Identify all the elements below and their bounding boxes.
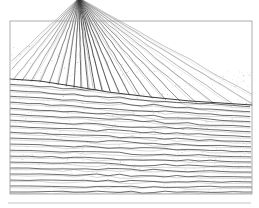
soil-speck: [134, 135, 135, 136]
soil-speck: [77, 145, 78, 146]
soil-speck: [133, 111, 134, 112]
soil-speck: [127, 76, 128, 77]
soil-speck: [105, 94, 106, 95]
soil-speck: [122, 150, 123, 151]
soil-speck: [245, 112, 246, 113]
soil-speck: [164, 154, 165, 155]
soil-speck: [126, 61, 127, 62]
soil-speck: [23, 117, 24, 118]
soil-speck: [47, 124, 48, 125]
soil-speck: [200, 75, 201, 76]
soil-speck: [16, 170, 17, 171]
soil-speck: [241, 126, 242, 127]
soil-speck: [177, 75, 178, 76]
soil-speck: [99, 139, 100, 140]
soil-speck: [132, 132, 133, 133]
soil-speck: [182, 129, 183, 130]
soil-speck: [29, 139, 30, 140]
soil-speck: [189, 99, 190, 100]
soil-speck: [142, 93, 143, 94]
soil-speck: [215, 74, 216, 75]
soil-speck: [238, 91, 239, 92]
soil-speck: [125, 135, 126, 136]
soil-speck: [16, 98, 17, 99]
soil-speck: [89, 120, 90, 121]
soil-speck: [143, 94, 144, 95]
soil-speck: [175, 85, 176, 86]
soil-speck: [28, 112, 29, 113]
soil-speck: [32, 85, 33, 86]
soil-speck: [232, 79, 233, 80]
soil-speck: [70, 80, 71, 81]
soil-speck: [228, 71, 229, 72]
soil-speck: [101, 113, 102, 114]
soil-speck: [66, 52, 67, 53]
soil-speck: [242, 186, 243, 187]
soil-speck: [181, 74, 182, 75]
soil-speck: [40, 72, 41, 73]
soil-speck: [153, 137, 154, 138]
soil-speck: [47, 117, 48, 118]
soil-speck: [184, 190, 185, 191]
soil-speck: [113, 138, 114, 139]
soil-speck: [193, 176, 194, 177]
soil-speck: [30, 63, 31, 64]
soil-speck: [39, 116, 40, 117]
soil-speck: [220, 82, 221, 83]
soil-speck: [243, 75, 244, 76]
soil-speck: [122, 79, 123, 80]
soil-speck: [145, 91, 146, 92]
soil-speck: [71, 88, 72, 89]
soil-speck: [158, 69, 159, 70]
soil-speck: [192, 191, 193, 192]
soil-speck: [223, 76, 224, 77]
soil-speck: [17, 81, 18, 82]
soil-speck: [181, 144, 182, 145]
soil-speck: [15, 122, 16, 123]
soil-speck: [192, 81, 193, 82]
soil-speck: [80, 71, 81, 72]
soil-speck: [29, 46, 30, 47]
soil-speck: [240, 155, 241, 156]
soil-speck: [194, 168, 195, 169]
soil-speck: [201, 174, 202, 175]
soil-speck: [94, 101, 95, 102]
soil-speck: [88, 130, 89, 131]
soil-speck: [165, 90, 166, 91]
soil-speck: [178, 87, 179, 88]
soil-speck: [118, 169, 119, 170]
soil-speck: [149, 125, 150, 126]
soil-speck: [240, 157, 241, 158]
soil-speck: [223, 140, 224, 141]
soil-speck: [23, 154, 24, 155]
soil-speck: [20, 157, 21, 158]
soil-speck: [83, 160, 84, 161]
soil-speck: [51, 136, 52, 137]
soil-speck: [177, 77, 178, 78]
soil-speck: [54, 75, 55, 76]
soil-speck: [114, 133, 115, 134]
soil-speck: [116, 112, 117, 113]
soil-speck: [101, 140, 102, 141]
soil-speck: [236, 143, 237, 144]
soil-speck: [179, 179, 180, 180]
soil-speck: [235, 86, 236, 87]
soil-speck: [67, 113, 68, 114]
figure-container: Ploughed field with converging furrows: [0, 0, 259, 208]
soil-speck: [60, 53, 61, 54]
soil-speck: [84, 97, 85, 98]
soil-speck: [232, 123, 233, 124]
soil-speck: [118, 118, 119, 119]
soil-speck: [113, 157, 114, 158]
field-furrows-drawing: [0, 0, 259, 208]
soil-speck: [201, 163, 202, 164]
soil-speck: [109, 122, 110, 123]
soil-speck: [114, 82, 115, 83]
soil-speck: [21, 117, 22, 118]
soil-speck: [125, 84, 126, 85]
soil-speck: [26, 78, 27, 79]
soil-speck: [165, 101, 166, 102]
soil-speck: [246, 103, 247, 104]
soil-speck: [62, 168, 63, 169]
soil-speck: [203, 148, 204, 149]
